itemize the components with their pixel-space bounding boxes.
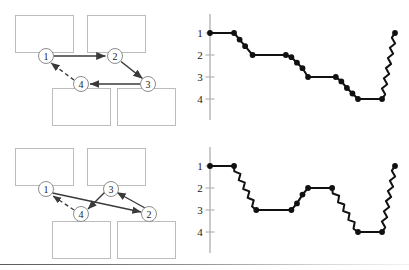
aoi-box [118, 222, 176, 259]
y-tick-label: 2 [197, 49, 203, 61]
node-4: 4 [74, 77, 89, 92]
y-tick-label: 2 [197, 182, 203, 194]
data-point-marker [289, 207, 295, 213]
data-point-marker [305, 185, 311, 191]
node-label: 1 [44, 51, 49, 62]
node-1: 1 [39, 182, 54, 197]
node-label: 1 [44, 184, 49, 195]
node-label: 3 [109, 184, 114, 195]
series-marker-group [207, 163, 398, 235]
data-point-marker [338, 79, 344, 85]
y-tick-label: 3 [197, 71, 203, 83]
edge-4-to-1 [53, 196, 74, 210]
data-point-marker [231, 30, 237, 36]
data-point-marker [379, 229, 385, 235]
data-point-marker [379, 96, 385, 102]
aoi-box [53, 222, 111, 259]
edge-1-to-2 [53, 193, 142, 212]
top-panel: 1 2 3 4 [0, 0, 409, 135]
aoi-box [118, 89, 176, 126]
data-point-marker [237, 37, 243, 43]
node-label: 4 [79, 209, 84, 220]
data-point-marker [231, 163, 237, 169]
data-point-marker [242, 43, 248, 49]
data-point-marker [294, 60, 300, 66]
fixation-sequence-chart-top: 1 2 3 4 [190, 0, 409, 135]
node-2: 2 [142, 207, 157, 222]
node-4: 4 [74, 207, 89, 222]
data-point-marker [350, 91, 356, 97]
y-tick-label: 1 [197, 27, 203, 39]
data-point-marker [300, 192, 306, 198]
y-tick-label: 3 [197, 204, 203, 216]
node-3: 3 [141, 77, 156, 92]
data-point-marker [294, 201, 300, 207]
data-point-marker [355, 229, 361, 235]
aoi-box [88, 16, 146, 53]
data-point-marker [300, 65, 306, 71]
data-point-marker [305, 74, 311, 80]
scanpath-diagram-bottom: 1 3 4 2 [0, 135, 190, 270]
y-tick-label: 4 [197, 93, 203, 105]
data-point-marker [333, 74, 339, 80]
node-label: 2 [147, 209, 152, 220]
y-axis: 1 2 3 4 [197, 14, 214, 120]
aoi-box [16, 16, 74, 53]
footer-rule [0, 264, 409, 265]
data-point-marker [253, 207, 259, 213]
aoi-box [53, 89, 111, 126]
edge-2-to-3 [117, 193, 145, 209]
data-point-marker [207, 30, 213, 36]
data-point-marker [283, 52, 289, 58]
series-path-group [210, 166, 395, 232]
data-point-marker [392, 163, 398, 169]
data-point-marker [392, 30, 398, 36]
y-axis: 1 2 3 4 [197, 147, 214, 253]
data-point-marker [344, 85, 350, 91]
y-tick-label: 4 [197, 226, 203, 238]
bottom-panel: 1 3 4 2 [0, 135, 409, 270]
fixation-sequence-chart-bottom: 1 2 3 4 [190, 135, 409, 270]
scanpath-diagram-top: 1 2 3 4 [0, 0, 190, 135]
aoi-box [88, 149, 146, 186]
data-point-marker [207, 163, 213, 169]
node-2: 2 [108, 49, 123, 64]
series-line [210, 166, 395, 232]
data-point-marker [329, 185, 335, 191]
node-label: 2 [113, 51, 118, 62]
y-tick-label: 1 [197, 160, 203, 172]
node-label: 3 [146, 79, 151, 90]
aoi-box [16, 149, 74, 186]
data-point-marker [250, 52, 256, 58]
node-1: 1 [39, 49, 54, 64]
series-marker-group [207, 30, 398, 102]
figure-container: 1 2 3 4 [0, 0, 409, 270]
edge-4-to-1 [51, 63, 74, 80]
node-label: 4 [79, 79, 84, 90]
data-point-marker [289, 54, 295, 60]
data-point-marker [355, 96, 361, 102]
node-3: 3 [104, 182, 119, 197]
edge-2-to-3 [121, 62, 143, 79]
